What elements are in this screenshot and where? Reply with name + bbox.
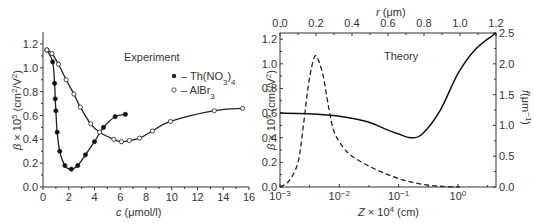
svg-text:100: 100 [450, 189, 467, 203]
legend-al: – AlBr3 [181, 84, 215, 101]
data-point [127, 138, 131, 142]
data-point [92, 140, 96, 144]
svg-text:0.8: 0.8 [23, 86, 38, 98]
data-point [69, 167, 73, 171]
data-point [72, 92, 76, 96]
data-point [101, 125, 105, 129]
legend-filled-marker-icon [172, 74, 176, 78]
svg-text:4: 4 [91, 191, 97, 203]
left-xlabel: c (μmol/l) [116, 206, 161, 218]
right-title: Theory [384, 50, 419, 62]
left-panel-experiment: 02468101214160.00.20.40.60.81.01.2 Exper… [10, 32, 256, 218]
data-point [112, 137, 116, 141]
data-point [50, 51, 54, 55]
figure: 02468101214160.00.20.40.60.81.01.2 Exper… [0, 0, 534, 224]
left-ylabel: β × 105 (cm2/V2) [10, 70, 24, 151]
svg-text:6: 6 [117, 191, 123, 203]
data-point [58, 149, 62, 153]
data-point [63, 163, 67, 167]
svg-text:0.2: 0.2 [23, 157, 38, 169]
svg-text:1.0: 1.0 [262, 58, 277, 70]
svg-text:16: 16 [243, 191, 255, 203]
svg-text:0.0: 0.0 [499, 181, 514, 193]
svg-text:2.0: 2.0 [499, 58, 514, 70]
svg-text:0.5: 0.5 [499, 150, 514, 162]
svg-text:0.0: 0.0 [23, 181, 38, 193]
svg-text:10−2: 10−2 [329, 189, 351, 203]
svg-text:10: 10 [166, 191, 178, 203]
svg-text:2: 2 [66, 191, 72, 203]
data-point [54, 109, 58, 113]
data-point [150, 129, 154, 133]
data-point [113, 115, 117, 119]
data-point [212, 109, 216, 113]
theory-beta-curve [280, 33, 496, 138]
data-point [137, 136, 141, 140]
data-point [119, 140, 123, 144]
right-y2label: f(μm−1) [520, 90, 534, 125]
svg-text:1.2: 1.2 [262, 33, 277, 45]
svg-text:0.4: 0.4 [23, 133, 38, 145]
data-point [83, 153, 87, 157]
left-title: Experiment [124, 51, 180, 63]
svg-text:1.5: 1.5 [499, 89, 514, 101]
right-panel-theory: 10−310−210−11000.00.20.40.60.81.01.20.00… [262, 6, 534, 218]
svg-text:1.2: 1.2 [23, 38, 38, 50]
right-top-xlabel: r (μm) [376, 6, 406, 18]
svg-text:0.2: 0.2 [262, 156, 277, 168]
data-point [53, 97, 57, 101]
svg-text:2.5: 2.5 [499, 27, 514, 39]
data-point [56, 62, 60, 66]
svg-text:0.0: 0.0 [262, 181, 277, 193]
svg-text:12: 12 [191, 191, 203, 203]
right-ylabel: β × 105 (cm2/V2) [264, 70, 278, 151]
svg-text:0.6: 0.6 [23, 110, 38, 122]
svg-text:0: 0 [40, 191, 46, 203]
svg-text:0.8: 0.8 [416, 17, 431, 29]
data-point [55, 130, 59, 134]
legend-open-marker-icon [172, 88, 176, 92]
right-xlabel: Z × 104 (cm) [357, 205, 419, 219]
svg-text:0.4: 0.4 [344, 17, 359, 29]
data-point [240, 106, 244, 110]
data-point [89, 122, 93, 126]
data-point [76, 163, 80, 167]
data-point [64, 78, 68, 82]
svg-text:1.0: 1.0 [452, 17, 467, 29]
svg-text:14: 14 [217, 191, 229, 203]
data-point [98, 130, 102, 134]
svg-text:0.2: 0.2 [308, 17, 323, 29]
data-point [168, 119, 172, 123]
svg-text:0.6: 0.6 [380, 17, 395, 29]
data-point [45, 48, 49, 52]
svg-text:8: 8 [143, 191, 149, 203]
svg-text:10−1: 10−1 [388, 189, 410, 203]
data-point [78, 105, 82, 109]
svg-text:1.0: 1.0 [23, 62, 38, 74]
data-point [123, 112, 127, 116]
data-point [51, 60, 55, 64]
data-point [52, 81, 56, 85]
left-series [45, 48, 245, 171]
svg-text:1.0: 1.0 [499, 119, 514, 131]
